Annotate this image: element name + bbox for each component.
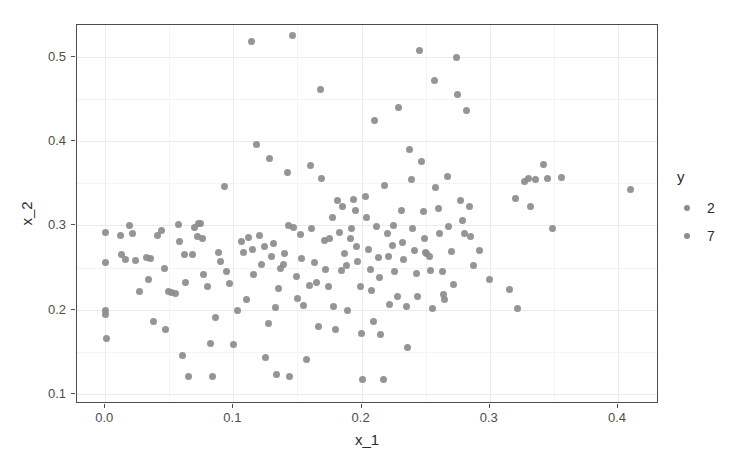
x-tick-mark [232,404,233,408]
x-tick-mark [361,404,362,408]
x-tick-label: 0.0 [95,410,113,425]
scatter-point [240,249,247,256]
scatter-point [384,230,391,237]
gridline-major-vertical [490,25,491,402]
scatter-point [284,169,291,176]
scatter-point [403,303,410,310]
scatter-point [209,373,216,380]
y-tick-label: 0.1 [48,385,66,400]
gridline-major-vertical [618,25,619,402]
scatter-point [448,248,455,255]
legend-entry[interactable]: 7 [676,222,746,250]
scatter-point [406,146,413,153]
scatter-point [347,235,354,242]
scatter-point [416,47,423,54]
scatter-point [215,249,222,256]
scatter-point [441,296,448,303]
x-tick-mark [489,404,490,408]
scatter-point [376,274,383,281]
scatter-point [359,376,366,383]
scatter-point [181,251,188,258]
scatter-point [540,161,547,168]
scatter-point [411,247,418,254]
scatter-point [363,214,370,221]
scatter-point [204,283,211,290]
legend-key-swatch [676,225,698,247]
scatter-point [404,344,411,351]
scatter-plot-figure: 0.00.10.20.30.4 0.10.20.30.40.5 x_1 x_2 … [0,0,748,467]
scatter-point [389,242,396,249]
gridline-major-horizontal [77,57,657,58]
scatter-point [318,175,325,182]
scatter-point [317,86,324,93]
scatter-point [129,230,136,237]
scatter-point [145,276,152,283]
scatter-point [185,373,192,380]
scatter-point [353,243,360,250]
scatter-point [439,268,446,275]
scatter-point [197,220,204,227]
legend-point-icon [684,205,690,211]
scatter-point [409,225,416,232]
gridline-major-horizontal [77,394,657,395]
scatter-point [453,54,460,61]
scatter-point [175,221,182,228]
scatter-point [367,266,374,273]
scatter-point [373,223,380,230]
scatter-point [103,335,110,342]
scatter-point [381,182,388,189]
scatter-point [627,186,634,193]
scatter-point [457,197,464,204]
scatter-point [532,176,539,183]
scatter-point [486,276,493,283]
scatter-point [325,283,332,290]
scatter-point [414,293,421,300]
scatter-point [256,232,263,239]
scatter-point [426,253,433,260]
scatter-point [463,107,470,114]
scatter-point [371,117,378,124]
y-tick-mark [71,140,75,141]
x-tick-mark [104,404,105,408]
y-tick-mark [71,393,75,394]
scatter-point [459,217,466,224]
scatter-point [182,279,189,286]
scatter-point [280,261,287,268]
scatter-point [348,225,355,232]
scatter-point [286,373,293,380]
scatter-point [358,330,365,337]
legend-entry-label: 2 [707,200,715,216]
scatter-point [427,267,434,274]
scatter-point [385,253,392,260]
scatter-point [375,254,382,261]
scatter-point [466,203,473,210]
scatter-point [339,203,346,210]
scatter-point [248,38,255,45]
gridline-major-horizontal [77,310,657,311]
scatter-point [421,235,428,242]
scatter-point [394,293,401,300]
scatter-point [525,175,532,182]
scatter-point [268,253,275,260]
scatter-point [338,267,345,274]
scatter-point [549,225,556,232]
legend-entries: 27 [676,194,746,250]
scatter-point [261,243,268,250]
legend-entry[interactable]: 2 [676,194,746,222]
scatter-point [126,222,133,229]
scatter-point [217,258,224,265]
scatter-point [558,174,565,181]
gridline-major-horizontal [77,141,657,142]
scatter-point [172,290,179,297]
scatter-point [329,214,336,221]
x-tick-label: 0.1 [223,410,241,425]
x-tick-label: 0.4 [608,410,626,425]
scatter-point [436,230,443,237]
x-tick-label: 0.3 [480,410,498,425]
scatter-point [281,250,288,257]
scatter-point [470,262,477,269]
scatter-point [380,376,387,383]
scatter-point [330,303,337,310]
legend-key-swatch [676,197,698,219]
gridline-minor-vertical [554,25,555,402]
